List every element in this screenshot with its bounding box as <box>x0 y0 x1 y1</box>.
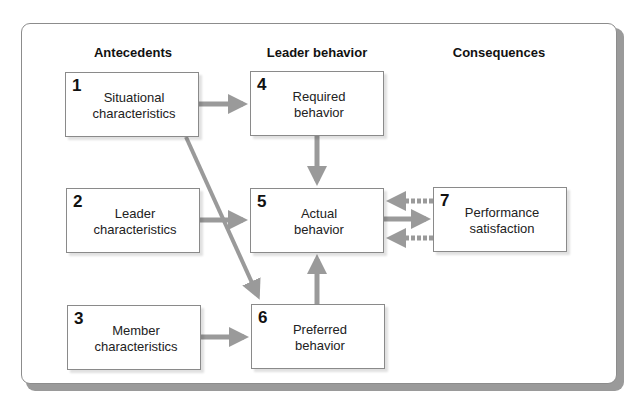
box-member-characteristics: 3 Member characteristics <box>67 305 201 370</box>
box-situational-characteristics: 1 Situational characteristics <box>65 72 199 137</box>
box-label-line1: Member <box>78 323 194 339</box>
box-label-line2: satisfaction <box>444 221 560 237</box>
box-leader-characteristics: 2 Leader characteristics <box>66 188 200 253</box>
box-label-line1: Leader <box>77 206 193 222</box>
box-label-line2: behavior <box>261 105 377 121</box>
box-label-line2: behavior <box>262 338 378 354</box>
box-preferred-behavior: 6 Preferred behavior <box>251 304 385 369</box>
box-label: Leader characteristics <box>77 206 193 238</box>
box-label: Preferred behavior <box>262 322 378 354</box>
box-actual-behavior: 5 Actual behavior <box>250 188 384 253</box>
box-label-line2: characteristics <box>76 106 192 122</box>
box-label-line1: Performance <box>444 205 560 221</box>
box-label: Member characteristics <box>78 323 194 355</box>
box-label-line2: behavior <box>261 222 377 238</box>
box-label: Performance satisfaction <box>444 205 560 237</box>
box-label: Situational characteristics <box>76 90 192 122</box>
box-label-line1: Situational <box>76 90 192 106</box>
box-performance-satisfaction: 7 Performance satisfaction <box>433 187 567 252</box>
box-required-behavior: 4 Required behavior <box>250 71 384 136</box>
box-label-line2: characteristics <box>78 339 194 355</box>
box-label: Required behavior <box>261 89 377 121</box>
box-label-line1: Preferred <box>262 322 378 338</box>
box-label-line1: Actual <box>261 206 377 222</box>
box-label: Actual behavior <box>261 206 377 238</box>
box-label-line1: Required <box>261 89 377 105</box>
box-label-line2: characteristics <box>77 222 193 238</box>
